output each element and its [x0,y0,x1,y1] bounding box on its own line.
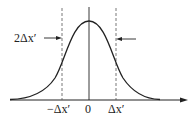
right-arrow-icon [116,37,122,41]
pos-label: Δx′ [108,103,124,115]
neg-label: −Δx′ [47,103,70,115]
zero-label: 0 [85,103,91,115]
x-axis-arrow-icon [180,98,188,103]
width-label: 2Δx′ [14,32,36,44]
gaussian-diagram [0,0,194,118]
left-arrow-icon [56,36,62,40]
